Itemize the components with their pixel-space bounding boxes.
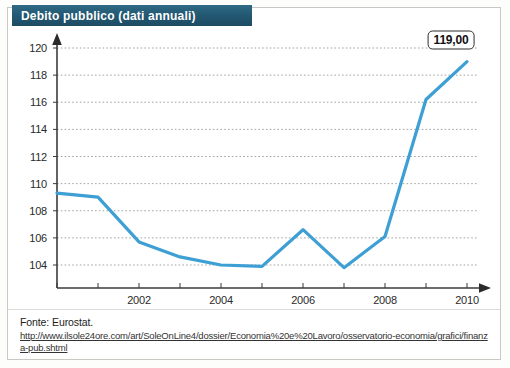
source-label: Fonte: Eurostat. — [20, 316, 93, 328]
figure-footer: Fonte: Eurostat. http://www.ilsole24ore.… — [0, 0, 510, 368]
source-url-link[interactable]: http://www.ilsole24ore.com/art/SoleOnLin… — [20, 330, 490, 353]
footer-divider — [8, 309, 500, 310]
chart-figure: Debito pubblico (dati annuali) 104106108… — [0, 0, 510, 368]
